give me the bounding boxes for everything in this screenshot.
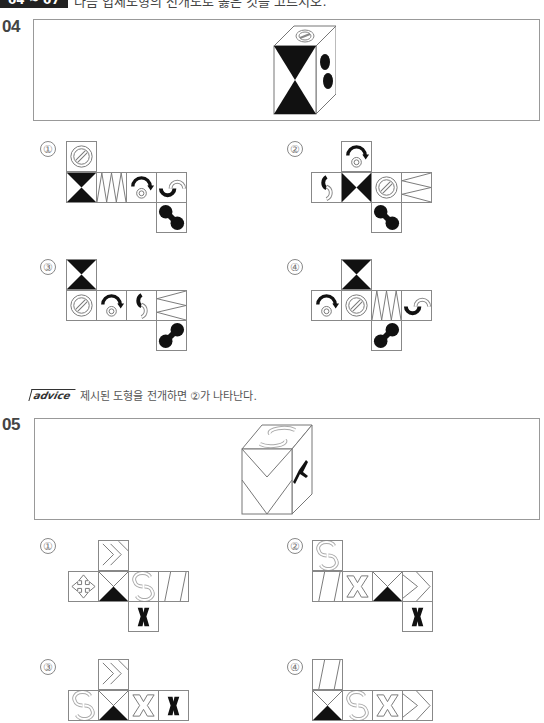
section-header: 04 ~ 07 다음 입체도형의 전개도로 옳은 것을 고르시오. <box>0 0 327 9</box>
option-04-4[interactable]: ④ <box>287 259 303 275</box>
instruction-text: 다음 입체도형의 전개도로 옳은 것을 고르시오. <box>74 0 327 10</box>
zigzag-icon <box>96 172 127 203</box>
arrow-circle-icon <box>341 141 372 172</box>
cross-arrows-icon <box>68 571 99 602</box>
slashed-circle-icon <box>371 172 402 203</box>
option-05-3[interactable]: ③ <box>40 659 56 675</box>
dumbbell-icon <box>156 320 187 351</box>
question-05-figure-box <box>34 418 540 520</box>
x-mark-icon <box>128 601 159 632</box>
chevrons-icon <box>98 659 129 690</box>
zigzag-icon <box>156 290 187 321</box>
chevron-triangle-icon <box>312 690 343 721</box>
hourglass-icon <box>341 259 372 290</box>
question-range-badge: 04 ~ 07 <box>0 0 68 8</box>
advice-note: advice 제시된 도형을 전개하면 ②가 나타난다. <box>30 387 257 403</box>
chevrons-icon <box>98 540 129 571</box>
bowtie-icon <box>341 172 372 203</box>
hook-icon <box>126 290 157 321</box>
slant-lines-icon <box>158 571 189 602</box>
dumbbell-icon <box>371 202 402 233</box>
option-04-3[interactable]: ③ <box>40 259 56 275</box>
slant-lines-icon <box>312 571 343 602</box>
hook-icon <box>401 290 432 321</box>
arrow-circle-icon <box>126 172 157 203</box>
swirl-arrows-icon <box>342 690 373 721</box>
chevron-triangle-icon <box>98 571 129 602</box>
cross-x-icon <box>372 690 403 721</box>
option-05-2[interactable]: ② <box>287 538 303 554</box>
dumbbell-icon <box>371 320 402 351</box>
hook-icon <box>156 172 187 203</box>
zigzag-icon <box>401 172 432 203</box>
advice-tag: advice <box>28 389 75 401</box>
slashed-circle-icon <box>341 290 372 321</box>
cube-04-icon <box>264 24 336 116</box>
chevrons-icon <box>402 571 433 602</box>
cross-x-icon <box>342 571 373 602</box>
question-number-04: 04 <box>2 17 20 37</box>
x-mark-icon <box>402 601 433 632</box>
question-04-figure-box <box>33 19 540 121</box>
cube-05-icon <box>240 422 315 517</box>
hook-icon <box>311 172 342 203</box>
advice-text: 제시된 도형을 전개하면 ②가 나타난다. <box>80 387 257 403</box>
cross-x-icon <box>128 690 159 721</box>
dumbbell-icon <box>156 202 187 233</box>
swirl-arrows-icon <box>68 690 99 721</box>
option-04-1[interactable]: ① <box>40 141 56 157</box>
swirl-arrows-icon <box>128 571 159 602</box>
chevron-triangle-icon <box>98 690 129 721</box>
x-mark-icon <box>158 690 189 721</box>
slashed-circle-icon <box>66 290 97 321</box>
chevron-triangle-icon <box>372 571 403 602</box>
slashed-circle-icon <box>66 141 97 172</box>
chevrons-icon <box>402 690 433 721</box>
arrow-circle-icon <box>311 290 342 321</box>
arrow-circle-icon <box>96 290 127 321</box>
option-05-1[interactable]: ① <box>40 538 56 554</box>
slant-lines-icon <box>312 659 343 690</box>
option-04-2[interactable]: ② <box>287 141 303 157</box>
question-number-05: 05 <box>2 415 20 435</box>
hourglass-icon <box>66 172 97 203</box>
hourglass-icon <box>66 259 97 290</box>
zigzag-icon <box>371 290 402 321</box>
swirl-arrows-icon <box>312 540 343 571</box>
option-05-4[interactable]: ④ <box>287 659 303 675</box>
